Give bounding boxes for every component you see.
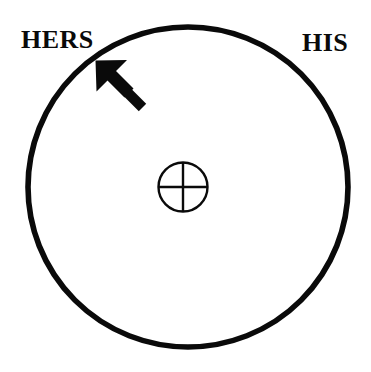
label-hers: HERS	[21, 27, 94, 53]
earth-crosshair-symbol	[159, 163, 208, 212]
up-left-arrow-icon	[96, 60, 143, 108]
label-his: HIS	[302, 30, 348, 56]
diagram-canvas: HERS HIS	[0, 0, 371, 372]
arrow-head	[96, 60, 134, 98]
